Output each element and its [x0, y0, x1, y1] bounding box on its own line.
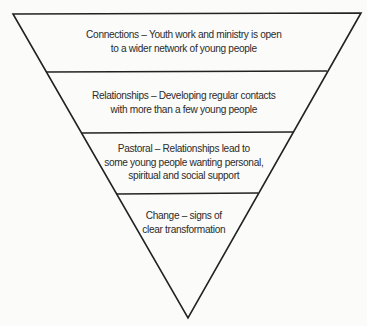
tier-pastoral-line-1: Pastoral – Relationships lead to [15, 142, 353, 156]
tier-relationships-line-2: with more than a few young people [15, 103, 353, 117]
tier-pastoral-line-3: spiritual and social support [15, 169, 353, 183]
tier-relationships-line-1: Relationships – Developing regular conta… [15, 89, 353, 103]
tier-pastoral: Pastoral – Relationships lead to some yo… [15, 142, 353, 183]
tier-change-line-2: clear transformation [15, 223, 353, 237]
tier-change: Change – signs of clear transformation [15, 209, 353, 236]
tier-relationships: Relationships – Developing regular conta… [15, 89, 353, 116]
tier-change-line-1: Change – signs of [15, 209, 353, 223]
tier-connections-line-2: to a wider network of young people [15, 42, 353, 56]
tier-pastoral-line-2: some young people wanting personal, [15, 156, 353, 170]
tier-connections: Connections – Youth work and ministry is… [15, 28, 353, 55]
tier-divider-1 [46, 71, 327, 72]
tier-divider-3 [116, 193, 258, 194]
tier-connections-line-1: Connections – Youth work and ministry is… [15, 28, 353, 42]
tier-divider-2 [81, 132, 293, 133]
